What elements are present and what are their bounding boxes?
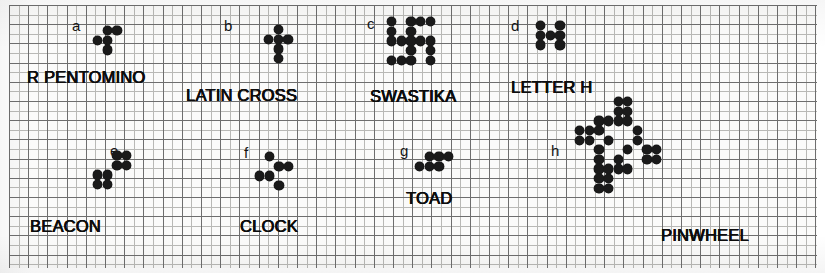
dead-cell	[284, 152, 294, 162]
dead-cell	[264, 25, 274, 35]
live-cell	[274, 35, 284, 45]
live-cell	[604, 116, 614, 126]
live-cell	[652, 155, 662, 165]
dead-cell	[585, 174, 595, 184]
dead-cell	[93, 45, 103, 55]
cell-row	[575, 183, 671, 193]
dead-cell	[633, 164, 643, 174]
dead-cell	[397, 17, 407, 27]
dead-cell	[604, 126, 614, 136]
cell-row	[387, 17, 435, 27]
pattern-grid-beacon	[93, 151, 131, 189]
live-cell	[397, 36, 407, 46]
live-cell	[555, 21, 565, 31]
live-cell	[103, 180, 113, 190]
dead-cell	[613, 135, 623, 145]
live-cell	[604, 183, 614, 193]
pattern-label-letter-h: LETTER H	[511, 79, 592, 96]
live-cell	[255, 171, 265, 181]
live-cell	[642, 155, 652, 165]
dead-cell	[623, 135, 633, 145]
live-cell	[604, 174, 614, 184]
cell-row	[387, 36, 435, 46]
dead-cell	[585, 145, 595, 155]
pattern-grid-letter-h	[536, 21, 565, 50]
live-cell	[555, 31, 565, 41]
dead-cell	[255, 181, 265, 191]
live-cell	[536, 40, 546, 50]
dead-cell	[585, 107, 595, 117]
cell-row	[387, 27, 435, 37]
dead-cell	[613, 145, 623, 155]
dead-cell	[575, 97, 585, 107]
live-cell	[112, 161, 122, 171]
cell-row	[264, 44, 293, 54]
live-cell	[623, 164, 633, 174]
dead-cell	[661, 155, 671, 165]
cell-row	[264, 25, 293, 35]
cell-row	[93, 161, 131, 171]
dead-cell	[652, 107, 662, 117]
dead-cell	[575, 145, 585, 155]
live-cell	[406, 36, 416, 46]
dead-cell	[274, 152, 284, 162]
dead-cell	[103, 151, 113, 161]
dead-cell	[112, 170, 122, 180]
live-cell	[425, 55, 435, 65]
dead-cell	[633, 97, 643, 107]
live-cell	[604, 135, 614, 145]
live-cell	[613, 97, 623, 107]
dead-cell	[122, 170, 132, 180]
dead-cell	[416, 27, 426, 37]
cell-row	[93, 180, 131, 190]
cell-row	[93, 36, 122, 46]
dead-cell	[575, 183, 585, 193]
cell-row	[536, 40, 565, 50]
live-cell	[623, 116, 633, 126]
live-cell	[434, 162, 444, 172]
live-cell	[274, 25, 284, 35]
dead-cell	[546, 40, 556, 50]
dead-cell	[112, 180, 122, 190]
cell-row	[415, 152, 453, 162]
live-cell	[623, 145, 633, 155]
dead-cell	[613, 183, 623, 193]
dead-cell	[575, 116, 585, 126]
live-cell	[425, 46, 435, 56]
live-cell	[406, 27, 416, 37]
dead-cell	[255, 152, 265, 162]
dead-cell	[575, 164, 585, 174]
dead-cell	[93, 26, 103, 36]
live-cell	[536, 21, 546, 31]
dead-cell	[575, 107, 585, 117]
pattern-label-r-pentomino: R PENTOMINO	[27, 69, 145, 86]
dead-cell	[585, 97, 595, 107]
cell-row	[255, 162, 293, 172]
dead-cell	[642, 126, 652, 136]
live-cell	[112, 151, 122, 161]
cell-row	[575, 174, 671, 184]
cell-row	[93, 170, 131, 180]
dead-cell	[661, 135, 671, 145]
live-cell	[387, 55, 397, 65]
dead-cell	[103, 161, 113, 171]
pattern-tag-a: a	[72, 18, 80, 33]
live-cell	[93, 36, 103, 46]
live-cell	[397, 55, 407, 65]
dead-cell	[633, 116, 643, 126]
dead-cell	[425, 27, 435, 37]
cell-row	[255, 171, 293, 181]
live-cell	[604, 164, 614, 174]
dead-cell	[265, 162, 275, 172]
pattern-grid-r-pentomino	[93, 26, 122, 55]
dead-cell	[633, 174, 643, 184]
live-cell	[425, 17, 435, 27]
pattern-grid-pinwheel	[575, 97, 671, 193]
pattern-tag-c: c	[367, 16, 375, 31]
live-cell	[416, 17, 426, 27]
dead-cell	[283, 54, 293, 64]
live-cell	[103, 170, 113, 180]
live-cell	[93, 170, 103, 180]
dead-cell	[633, 155, 643, 165]
dead-cell	[652, 126, 662, 136]
